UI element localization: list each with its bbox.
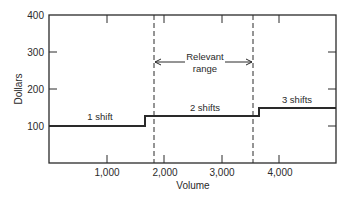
y-axis-ticks-right [328,52,336,126]
x-tick-label-1000: 1,000 [94,167,119,178]
plot-frame [49,15,336,163]
segment-label-2-shifts: 2 shifts [190,102,220,113]
segment-label-1-shift: 1 shift [87,111,113,122]
y-tick-label-100: 100 [27,121,44,132]
relevant-range-label-line2: range [193,63,217,74]
y-tick-label-300: 300 [27,47,44,58]
y-tick-label-400: 400 [27,10,44,21]
x-axis-label: Volume [176,180,210,191]
relevant-range-label-line1: Relevant [186,51,224,62]
y-axis-label: Dollars [13,73,24,104]
relevant-range-arrow-right [225,59,252,65]
step-cost-chart: 400 300 200 100 1,000 2,000 3,000 4,000 … [0,0,353,197]
y-axis-ticks-left [49,52,57,126]
x-tick-label-2000: 2,000 [152,167,177,178]
x-tick-label-4000: 4,000 [267,167,292,178]
y-tick-label-200: 200 [27,84,44,95]
x-tick-label-3000: 3,000 [209,167,234,178]
relevant-range-arrow-left [155,59,185,65]
segment-label-3-shifts: 3 shifts [282,94,312,105]
